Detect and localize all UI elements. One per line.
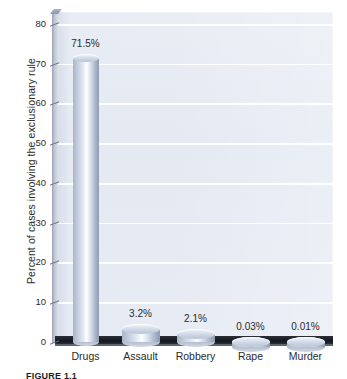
bar-top-ellipse <box>287 337 325 347</box>
y-tick-label: 40 <box>26 177 46 188</box>
gridline <box>58 223 333 225</box>
bar-top-ellipse <box>177 329 215 339</box>
y-tick-label: 60 <box>26 97 46 108</box>
bar[interactable] <box>122 324 160 347</box>
y-axis-title: Percent of cases involving the exclusion… <box>24 6 38 336</box>
bar[interactable] <box>73 54 99 346</box>
plot-area <box>58 12 333 342</box>
gridline <box>58 143 333 145</box>
bar-value-label: 3.2% <box>111 308 171 319</box>
gridline <box>58 64 333 66</box>
bar-top-ellipse <box>73 54 99 62</box>
y-axis-spine <box>52 12 58 343</box>
y-tick-label: 30 <box>26 217 46 228</box>
figure-caption: FIGURE 1.1 <box>26 371 77 379</box>
bar-value-label: 2.1% <box>166 313 226 324</box>
gridline <box>58 24 333 26</box>
gridline <box>58 302 333 304</box>
y-tick-label: 70 <box>26 58 46 69</box>
plot-shading <box>58 12 333 342</box>
bar-value-label: 0.01% <box>276 321 336 332</box>
bar-body <box>73 58 99 342</box>
y-tick-label: 20 <box>26 256 46 267</box>
x-axis-label: Murder <box>271 350 341 362</box>
gridline <box>58 183 333 185</box>
y-tick-label: 80 <box>26 18 46 29</box>
bar[interactable] <box>177 329 215 347</box>
gridline <box>58 103 333 105</box>
gridline <box>58 262 333 264</box>
bar-value-label: 0.03% <box>221 321 281 332</box>
y-tick-label: 10 <box>26 296 46 307</box>
y-tick-label: 0 <box>26 336 46 347</box>
y-tick-label: 50 <box>26 137 46 148</box>
bar-value-label: 71.5% <box>56 38 116 49</box>
figure-container: Percent of cases involving the exclusion… <box>0 0 347 379</box>
bar-top-ellipse <box>232 337 270 347</box>
